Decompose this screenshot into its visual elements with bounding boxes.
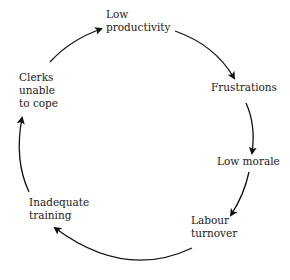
cycle-diagram: Low productivity Frustrations Low morale…: [0, 0, 290, 280]
arrow-clerks-to-productivity: [50, 29, 101, 62]
node-clerks-unable: Clerks unable to cope: [19, 71, 58, 110]
node-frustrations: Frustrations: [211, 81, 277, 94]
node-labour-turnover: Labour turnover: [191, 214, 237, 240]
arrow-morale-to-turnover: [231, 172, 249, 215]
arrow-frustrations-to-morale: [246, 103, 253, 153]
node-low-productivity: Low productivity: [106, 8, 170, 34]
arrow-productivity-to-frustrations: [175, 31, 234, 78]
arrows-layer: [0, 0, 290, 280]
arrow-turnover-to-training: [55, 228, 192, 260]
node-low-morale: Low morale: [217, 155, 280, 168]
node-inadequate-training: Inadequate training: [29, 196, 89, 222]
arrow-training-to-clerks: [19, 118, 29, 192]
